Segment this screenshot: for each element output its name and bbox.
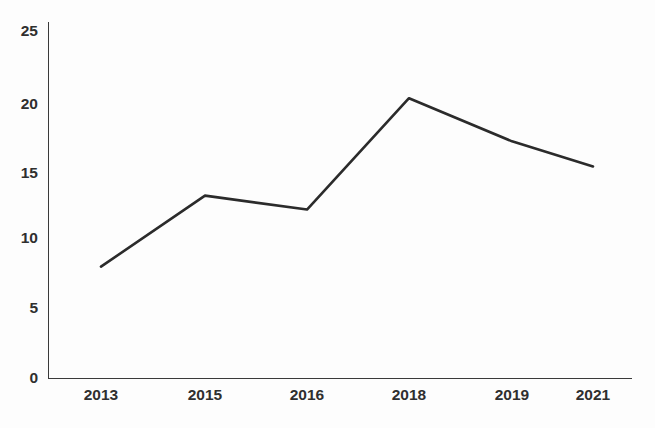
x-tick-label-2015: 2015 xyxy=(188,386,223,403)
y-tick-label-0: 0 xyxy=(29,369,38,386)
x-tick-label-2016: 2016 xyxy=(290,386,325,403)
x-tick-label-2013: 2013 xyxy=(84,386,119,403)
y-tick-label-15: 15 xyxy=(21,164,39,181)
y-tick-label-25: 25 xyxy=(21,22,39,39)
x-tick-label-2018: 2018 xyxy=(392,386,427,403)
x-tick-label-2021: 2021 xyxy=(576,386,611,403)
x-tick-label-2019: 2019 xyxy=(495,386,530,403)
y-tick-label-10: 10 xyxy=(21,229,38,246)
line-chart: 0 5 10 15 20 25 2013 2015 2016 2018 2019… xyxy=(0,0,655,428)
chart-screenshot: 0 5 10 15 20 25 2013 2015 2016 2018 2019… xyxy=(0,0,655,428)
y-tick-label-20: 20 xyxy=(21,95,38,112)
plot-background xyxy=(0,0,655,428)
y-tick-label-5: 5 xyxy=(29,299,38,316)
